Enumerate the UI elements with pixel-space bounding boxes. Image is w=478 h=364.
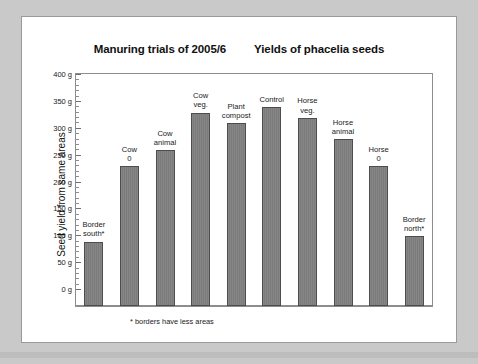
y-tick-minor bbox=[76, 112, 79, 113]
bar-label-line: Horse bbox=[297, 96, 317, 105]
bar-group[interactable]: Bordernorth* bbox=[405, 74, 424, 306]
bar-group[interactable]: Cow0 bbox=[120, 74, 139, 306]
bar-label-10: Bordernorth* bbox=[403, 215, 426, 233]
y-tick-major bbox=[76, 101, 81, 102]
bar-9[interactable] bbox=[369, 166, 388, 306]
bar-label-line: animal bbox=[332, 127, 354, 136]
y-tick-minor bbox=[76, 268, 79, 269]
chart-card: Manuring trials of 2005/6 Yields of phac… bbox=[21, 16, 457, 343]
y-tick-minor bbox=[76, 79, 79, 80]
y-tick-minor bbox=[76, 284, 79, 285]
bar-label-5: Plantcompost bbox=[222, 102, 251, 120]
bar-label-line: Control bbox=[260, 95, 284, 104]
y-tick-label-250: 250 g bbox=[53, 150, 72, 159]
bar-group[interactable]: Horse0 bbox=[369, 74, 388, 306]
bar-label-line: veg. bbox=[193, 100, 208, 109]
y-tick-minor bbox=[76, 214, 79, 215]
bar-label-1: Bordersouth* bbox=[82, 220, 105, 238]
bar-label-9: Horse0 bbox=[368, 145, 388, 163]
y-tick-major bbox=[76, 235, 81, 236]
bar-4[interactable] bbox=[191, 113, 210, 307]
bar-label-3: Cowanimal bbox=[154, 129, 176, 147]
bar-group[interactable]: Horseanimal bbox=[334, 74, 353, 306]
bar-label-6: Control bbox=[260, 95, 284, 104]
y-tick-minor bbox=[76, 230, 79, 231]
bar-7[interactable] bbox=[298, 118, 317, 306]
bar-1[interactable] bbox=[84, 242, 103, 307]
bar-10[interactable] bbox=[405, 236, 424, 306]
y-tick-minor bbox=[76, 85, 79, 86]
bar-label-line: Cow bbox=[122, 145, 137, 154]
y-tick-minor bbox=[76, 122, 79, 123]
bar-group[interactable]: Horseveg. bbox=[298, 74, 317, 306]
bar-group[interactable]: Bordersouth* bbox=[84, 74, 103, 306]
y-tick-minor bbox=[76, 96, 79, 97]
bar-label-line: Border bbox=[403, 215, 426, 224]
y-tick-minor bbox=[76, 133, 79, 134]
y-tick-minor bbox=[76, 144, 79, 145]
y-tick-major bbox=[76, 74, 81, 75]
bar-label-line: Cow bbox=[154, 129, 176, 138]
bar-label-2: Cow0 bbox=[122, 145, 137, 163]
y-tick-minor bbox=[76, 225, 79, 226]
y-tick-minor bbox=[76, 241, 79, 242]
y-tick-minor bbox=[76, 106, 79, 107]
bar-group[interactable]: Control bbox=[262, 74, 281, 306]
bar-label-line: Horse bbox=[368, 145, 388, 154]
y-tick-major bbox=[76, 262, 81, 263]
footnote-text: * borders have less areas bbox=[130, 317, 214, 326]
y-tick-label-50: 50 g bbox=[57, 258, 72, 267]
bar-group[interactable]: Cowanimal bbox=[156, 74, 175, 306]
y-tick-minor bbox=[76, 219, 79, 220]
y-tick-minor bbox=[76, 278, 79, 279]
y-tick-minor bbox=[76, 171, 79, 172]
y-tick-label-100: 100 g bbox=[53, 231, 72, 240]
y-tick-major bbox=[76, 128, 81, 129]
bar-label-4: Cowveg. bbox=[193, 91, 208, 109]
y-tick-minor bbox=[76, 165, 79, 166]
chart-title-left: Manuring trials of 2005/6 bbox=[94, 43, 226, 55]
y-tick-minor bbox=[76, 90, 79, 91]
bar-label-line: compost bbox=[222, 111, 251, 120]
bar-label-line: veg. bbox=[297, 106, 317, 115]
y-tick-minor bbox=[76, 187, 79, 188]
y-tick-minor bbox=[76, 160, 79, 161]
y-tick-minor bbox=[76, 257, 79, 258]
bar-label-line: 0 bbox=[368, 154, 388, 163]
y-tick-label-350: 350 g bbox=[53, 96, 72, 105]
bar-group[interactable]: Plantcompost bbox=[227, 74, 246, 306]
y-tick-major bbox=[76, 155, 81, 156]
bar-label-line: north* bbox=[403, 224, 426, 233]
chart-title-right: Yields of phacelia seeds bbox=[254, 43, 384, 55]
bar-label-line: south* bbox=[82, 229, 105, 238]
bar-label-8: Horseanimal bbox=[332, 118, 354, 136]
y-tick-minor bbox=[76, 246, 79, 247]
y-tick-minor bbox=[76, 251, 79, 252]
y-tick-minor bbox=[76, 273, 79, 274]
page-shadow-strip bbox=[0, 352, 478, 358]
bar-label-line: Border bbox=[82, 220, 105, 229]
y-tick-minor bbox=[76, 117, 79, 118]
bar-label-line: Plant bbox=[222, 102, 251, 111]
bar-6[interactable] bbox=[262, 107, 281, 306]
y-tick-major bbox=[76, 182, 81, 183]
bar-2[interactable] bbox=[120, 166, 139, 306]
y-tick-label-0: 0 g bbox=[62, 285, 72, 294]
y-tick-label-300: 300 g bbox=[53, 123, 72, 132]
bar-8[interactable] bbox=[334, 139, 353, 306]
y-tick-minor bbox=[76, 139, 79, 140]
y-tick-minor bbox=[76, 203, 79, 204]
y-tick-major bbox=[76, 208, 81, 209]
bar-group[interactable]: Cowveg. bbox=[191, 74, 210, 306]
bar-label-line: Horse bbox=[332, 118, 354, 127]
y-tick-minor bbox=[76, 149, 79, 150]
bar-label-line: Cow bbox=[193, 91, 208, 100]
bar-3[interactable] bbox=[156, 150, 175, 306]
y-tick-minor bbox=[76, 192, 79, 193]
bar-5[interactable] bbox=[227, 123, 246, 306]
y-tick-minor bbox=[76, 176, 79, 177]
y-tick-label-150: 150 g bbox=[53, 204, 72, 213]
chart-title-row: Manuring trials of 2005/6 Yields of phac… bbox=[22, 39, 456, 59]
screenshot-root: Manuring trials of 2005/6 Yields of phac… bbox=[0, 0, 478, 364]
y-tick-minor bbox=[76, 198, 79, 199]
